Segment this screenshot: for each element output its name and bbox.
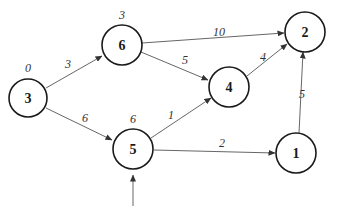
edge-weights: 3 6 10 5 1 4 2 5	[64, 25, 305, 150]
weight-5-1: 2	[219, 136, 225, 150]
edge-4-2	[247, 44, 287, 76]
graph-diagram: 3 6 10 5 1 4 2 5 0 3 6 3 6 2 4 5 1	[0, 0, 347, 217]
edge-5-4	[151, 98, 211, 138]
svg-text:5: 5	[130, 142, 137, 157]
node-3: 3	[9, 79, 47, 117]
dist-node-6: 3	[118, 8, 125, 22]
node-5: 5	[113, 129, 153, 169]
edge-3-6	[46, 56, 102, 88]
weight-5-4: 1	[168, 108, 174, 122]
edge-3-5	[46, 108, 112, 140]
node-1: 1	[276, 133, 316, 173]
svg-text:6: 6	[119, 38, 126, 53]
svg-text:3: 3	[25, 91, 32, 106]
node-6: 6	[102, 25, 142, 65]
dist-node-5: 6	[130, 112, 136, 126]
node-4: 4	[209, 67, 249, 107]
weight-3-5: 6	[82, 111, 88, 125]
weight-3-6: 3	[64, 57, 71, 71]
svg-text:4: 4	[226, 80, 233, 95]
weight-4-2: 4	[260, 50, 266, 64]
dist-node-3: 0	[25, 61, 31, 75]
weight-6-4: 5	[182, 53, 188, 67]
node-2: 2	[285, 12, 325, 52]
edge-5-1	[154, 150, 275, 153]
svg-text:2: 2	[302, 25, 309, 40]
edge-6-4	[141, 52, 208, 80]
svg-text:1: 1	[293, 146, 300, 161]
weight-1-2: 5	[299, 87, 305, 101]
weight-6-2: 10	[213, 25, 225, 39]
